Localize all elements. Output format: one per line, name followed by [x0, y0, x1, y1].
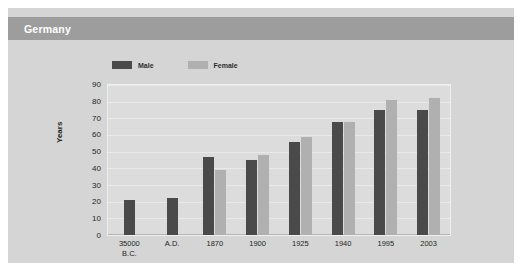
y-tick-label: 30 — [79, 180, 101, 189]
x-tick-label: 35000 B.C. — [108, 239, 151, 258]
legend-entry: Male — [112, 61, 154, 69]
chart-legend: MaleFemale — [112, 61, 238, 69]
x-tick-label: 1925 — [279, 239, 322, 249]
bar-group — [407, 85, 450, 235]
x-tick-label: 1940 — [322, 239, 365, 249]
x-tick-label: 1900 — [236, 239, 279, 249]
y-tick-label: 50 — [79, 147, 101, 156]
y-axis-ticks: 9080706050403020100 — [79, 84, 101, 235]
legend-swatch-female — [188, 61, 208, 69]
y-tick-label: 10 — [79, 214, 101, 223]
bar-group — [279, 85, 322, 235]
legend-label: Male — [138, 62, 154, 69]
bar-series-container — [108, 85, 450, 235]
y-tick-label: 20 — [79, 197, 101, 206]
y-tick-label: 0 — [79, 231, 101, 240]
bar-group — [194, 85, 237, 235]
chart-figure: Germany MaleFemale Years 908070605040302… — [8, 8, 514, 263]
bar-female — [344, 122, 355, 235]
bar-male — [246, 160, 257, 235]
y-tick-label: 40 — [79, 163, 101, 172]
bar-male — [332, 122, 343, 235]
y-tick-label: 90 — [79, 80, 101, 89]
y-axis-title: Years — [55, 122, 64, 143]
bar-male — [374, 110, 385, 235]
legend-label: Female — [214, 62, 238, 69]
bar-group — [151, 85, 194, 235]
bar-male — [203, 157, 214, 235]
x-tick-label: 2003 — [407, 239, 450, 249]
bar-male — [289, 142, 300, 235]
bar-female — [429, 98, 440, 235]
x-tick-label: A.D. — [151, 239, 194, 249]
y-tick-label: 80 — [79, 96, 101, 105]
page-title: Germany — [24, 23, 71, 35]
bar-female — [301, 137, 312, 235]
y-tick-label: 70 — [79, 113, 101, 122]
x-tick-label: 1995 — [365, 239, 408, 249]
bar-group — [322, 85, 365, 235]
bar-male — [417, 110, 428, 235]
x-tick-label: 1870 — [194, 239, 237, 249]
chart-title-bar: Germany — [8, 17, 514, 40]
bar-group — [365, 85, 408, 235]
bar-female — [386, 100, 397, 235]
bar-male — [167, 198, 178, 235]
bar-group — [108, 85, 151, 235]
x-axis-labels: 35000 B.C.A.D.187019001925194019952003 — [108, 239, 450, 267]
bar-female — [215, 170, 226, 235]
bar-male — [124, 200, 135, 235]
legend-entry: Female — [188, 61, 238, 69]
bar-female — [258, 155, 269, 235]
bar-group — [236, 85, 279, 235]
y-tick-label: 60 — [79, 130, 101, 139]
legend-swatch-male — [112, 61, 132, 69]
